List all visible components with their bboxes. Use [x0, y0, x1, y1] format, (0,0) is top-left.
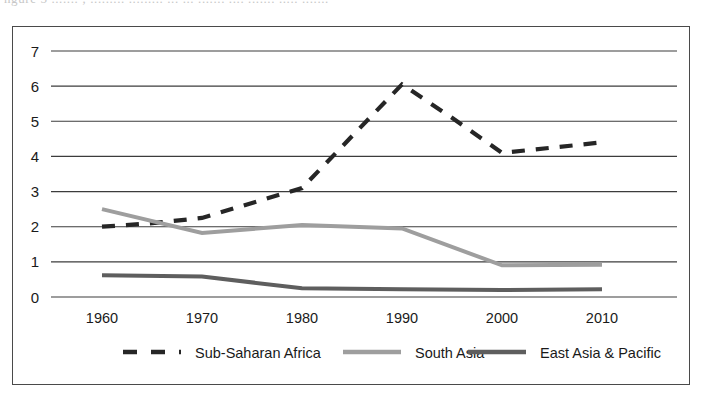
- y-tick-label: 0: [31, 289, 39, 306]
- legend-item-label: East Asia & Pacific: [540, 345, 661, 361]
- line-chart: 01234567 196019701980199020002010 Sub-Sa…: [13, 27, 691, 386]
- y-tick-label: 4: [31, 148, 39, 165]
- x-tick-label: 1980: [286, 310, 318, 326]
- y-tick-label: 1: [31, 253, 39, 270]
- x-axis-tick-labels: 196019701980199020002010: [86, 310, 618, 326]
- series-line-south-asia: [102, 209, 602, 265]
- y-tick-label: 3: [31, 183, 39, 200]
- y-tick-label: 5: [31, 113, 39, 130]
- legend: Sub-Saharan AfricaSouth AsiaEast Asia & …: [123, 345, 661, 361]
- y-axis-tick-labels: 01234567: [31, 43, 39, 306]
- x-tick-label: 1960: [86, 310, 118, 326]
- x-tick-label: 1970: [186, 310, 218, 326]
- caption-remnant-text: ngure 5 ....... ; ......... ......... ..…: [4, 0, 710, 7]
- caption-remnant: ngure 5 ....... ; ......... ......... ..…: [0, 0, 710, 9]
- y-tick-label: 6: [31, 78, 39, 95]
- legend-item-label: Sub-Saharan Africa: [195, 345, 322, 361]
- chart-canvas: 01234567 196019701980199020002010 Sub-Sa…: [13, 27, 691, 386]
- series-group: [102, 84, 602, 290]
- x-tick-label: 2010: [586, 310, 618, 326]
- y-tick-label: 7: [31, 43, 39, 60]
- y-tick-label: 2: [31, 218, 39, 235]
- series-line-sub-saharan-africa: [102, 84, 602, 226]
- x-tick-label: 1990: [386, 310, 418, 326]
- series-line-east-asia-pacific: [102, 275, 602, 290]
- figure-frame: 01234567 196019701980199020002010 Sub-Sa…: [12, 26, 690, 385]
- gridlines-group: [51, 51, 677, 297]
- x-tick-label: 2000: [486, 310, 518, 326]
